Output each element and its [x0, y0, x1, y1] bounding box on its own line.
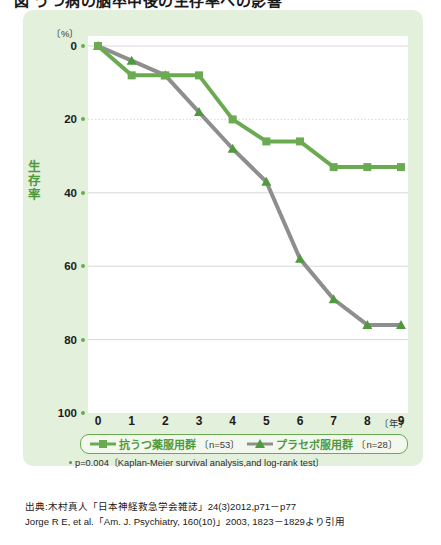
x-axis-tick-1: 1 [121, 414, 143, 428]
x-axis-tick-6: 6 [289, 414, 311, 428]
x-axis-tick-4: 4 [222, 414, 244, 428]
source-line-1: 出典:木村真人「日本神経救急学会雑誌」24(3)2012,p71－p77 [25, 500, 435, 515]
series-layer [93, 41, 406, 329]
y-tick-mark [81, 411, 85, 415]
y-tick-mark [81, 117, 85, 121]
legend-label: 抗うつ薬服用群 [119, 436, 196, 452]
x-axis-tick-5: 5 [255, 414, 277, 428]
y-axis-tick-60: 40 [43, 187, 77, 199]
y-axis-title: 生存率 [26, 160, 42, 202]
y-axis-tick-80: 20 [43, 113, 77, 125]
source-citation: 出典:木村真人「日本神経救急学会雑誌」24(3)2012,p71－p77 Jor… [25, 500, 435, 530]
x-axis-tick-2: 2 [154, 414, 176, 428]
legend-sample-size: 〔n=28〕 [356, 437, 397, 451]
legend-item-antidepressant: 抗うつ薬服用群〔n=53〕 [90, 436, 240, 452]
page-title-clipped: 図 うつ病の脳卒中後の生存率への影響 [0, 0, 441, 9]
y-tick-mark [81, 338, 85, 342]
x-axis-tick-labels: 〔年〕 0123456789 [23, 414, 423, 434]
statistics-footnote: p=0.004〔Kaplan-Meier survival analysis,a… [69, 455, 324, 469]
gridlines [88, 46, 408, 340]
y-axis-tick-labels: 100806040200 [41, 10, 77, 466]
y-tick-mark [81, 44, 85, 48]
y-axis-tick-20: 80 [43, 334, 77, 346]
footnote-text: p=0.004〔Kaplan-Meier survival analysis,a… [75, 458, 324, 468]
x-axis-tick-7: 7 [323, 414, 345, 428]
y-tick-mark [81, 264, 85, 268]
chart-legend: 抗うつ薬服用群〔n=53〕プラセボ服用群〔n=28〕 [80, 434, 408, 454]
y-axis-tick-40: 60 [43, 260, 77, 272]
triangle-marker [247, 438, 273, 450]
x-axis-tick-0: 0 [87, 414, 109, 428]
page-title: 図 うつ病の脳卒中後の生存率への影響 [14, 0, 282, 9]
legend-sample-size: 〔n=53〕 [199, 437, 240, 451]
y-tick-mark [81, 191, 85, 195]
figure-panel: 〔%〕 生存率 100806040200 〔年〕 0123456789 抗うつ薬… [23, 10, 423, 466]
x-axis-tick-8: 8 [356, 414, 378, 428]
square-marker [90, 438, 116, 450]
source-line-2: Jorge R E, et al.「Am. J. Psychiatry, 160… [25, 515, 435, 530]
legend-item-placebo: プラセボ服用群〔n=28〕 [247, 436, 397, 452]
x-axis-tick-9: 9 [390, 414, 412, 428]
plot-area [88, 36, 408, 413]
survival-curve-chart [88, 36, 408, 413]
y-axis-tick-100: 0 [43, 40, 77, 52]
legend-label: プラセボ服用群 [276, 436, 353, 452]
bullet-icon [69, 461, 72, 464]
x-axis-tick-3: 3 [188, 414, 210, 428]
